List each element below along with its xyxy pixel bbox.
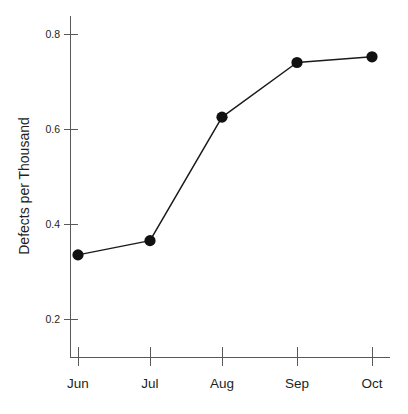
data-point-oct bbox=[366, 51, 377, 62]
x-tick-label-aug: Aug bbox=[210, 376, 234, 391]
x-tick-label-jul: Jul bbox=[141, 376, 158, 391]
data-point-jun bbox=[72, 249, 83, 260]
series-markers bbox=[72, 51, 377, 260]
y-tick-label-0.4: 0.4 bbox=[45, 218, 60, 230]
y-tick-label-0.8: 0.8 bbox=[45, 28, 60, 40]
series-line-defects bbox=[78, 57, 372, 255]
data-point-aug bbox=[216, 112, 227, 123]
x-tick-label-oct: Oct bbox=[361, 376, 382, 391]
line-chart: Defects per Thousand 0.8 0.6 0.4 0.2 Jun… bbox=[0, 0, 408, 414]
y-tick-label-0.6: 0.6 bbox=[45, 123, 60, 135]
x-tick-label-sep: Sep bbox=[285, 376, 309, 391]
y-axis-title: Defects per Thousand bbox=[16, 117, 32, 255]
y-tick-label-0.2: 0.2 bbox=[45, 313, 60, 325]
chart-container: Defects per Thousand 0.8 0.6 0.4 0.2 Jun… bbox=[0, 0, 408, 414]
data-point-jul bbox=[144, 235, 155, 246]
x-tick-label-jun: Jun bbox=[67, 376, 89, 391]
data-point-sep bbox=[291, 57, 302, 68]
